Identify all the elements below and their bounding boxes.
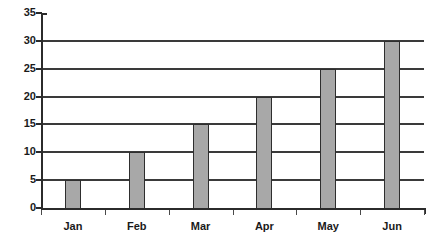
bar: [320, 69, 336, 209]
x-axis-tick-label: Mar: [191, 220, 211, 232]
plot-area: [41, 13, 424, 210]
bar: [256, 97, 272, 209]
x-axis-line: [41, 208, 426, 210]
x-axis-tick-mark: [41, 210, 42, 215]
y-axis-tick-labels: 35302520151050: [6, 0, 36, 248]
x-axis-tick-mark: [424, 210, 425, 215]
y-axis-tick-label: 35: [8, 7, 36, 18]
bar: [193, 124, 209, 209]
x-axis-tick-label: Apr: [255, 220, 274, 232]
y-axis-tick-label: 5: [8, 174, 36, 185]
y-axis-tick-label: 25: [8, 63, 36, 74]
gridline: [41, 151, 424, 153]
bar: [384, 41, 400, 209]
y-axis-tick-label: 15: [8, 118, 36, 129]
x-axis-tick-label: Jun: [382, 220, 402, 232]
y-axis-tick-label: 30: [8, 35, 36, 46]
gridline: [41, 179, 424, 181]
gridline: [41, 68, 424, 70]
x-axis-tick-label: Jan: [63, 220, 82, 232]
bar: [129, 152, 145, 209]
x-axis-tick-label: May: [318, 220, 339, 232]
x-axis-tick-mark: [233, 210, 234, 215]
y-axis-top-cap: [41, 13, 47, 15]
gridline: [41, 96, 424, 98]
x-axis-tick-mark: [169, 210, 170, 215]
y-axis-tick-label: 10: [8, 146, 36, 157]
y-axis-tick-label: 0: [8, 202, 36, 213]
x-axis-tick-mark: [105, 210, 106, 215]
y-axis-tick-label: 20: [8, 91, 36, 102]
x-axis-tick-mark: [296, 210, 297, 215]
x-axis-tick-mark: [360, 210, 361, 215]
gridline: [41, 123, 424, 125]
x-axis-tick-label: Feb: [127, 220, 147, 232]
y-axis-line: [41, 13, 43, 210]
gridline: [41, 40, 424, 42]
bar-chart: 35302520151050 JanFebMarAprMayJun: [0, 0, 444, 248]
bar: [65, 180, 81, 209]
